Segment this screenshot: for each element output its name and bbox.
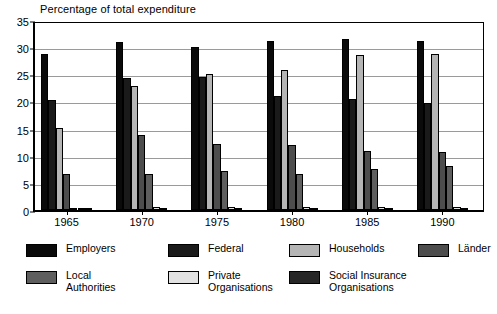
bar-1990-social-insurance-organisations (461, 208, 468, 210)
x-tick-label-1980: 1980 (280, 216, 304, 228)
bar-1975-social-insurance-organisations (235, 208, 242, 210)
bar-1975-households (206, 74, 213, 210)
bar-1975-local-authorities (221, 171, 228, 210)
legend-row: Local AuthoritiesPrivate OrganisationsSo… (26, 270, 486, 297)
bar-1965-households (56, 128, 63, 210)
legend-item-private-organisations[interactable]: Private Organisations (168, 270, 273, 293)
bar-1965-private-organisations (78, 208, 85, 210)
legend-item-social-insurance-organisations[interactable]: Social Insurance Organisations (289, 270, 407, 293)
bar-1985-federal (349, 99, 356, 210)
bar-group-1980 (267, 22, 318, 210)
legend-label: Local Authorities (66, 270, 116, 293)
x-tick-mark-1990 (442, 210, 443, 215)
bar-1990-households (431, 54, 438, 210)
x-tick-label-1970: 1970 (129, 216, 153, 228)
x-tick-mark-1975 (217, 210, 218, 215)
legend-label: Social Insurance Organisations (329, 270, 407, 293)
legend-item-employers[interactable]: Employers (26, 243, 116, 257)
legend-swatch-icon (418, 244, 449, 257)
bar-group-1970 (116, 22, 167, 210)
bar-1985-employers (342, 39, 349, 210)
bar-1985-local-authorities (371, 169, 378, 210)
x-tick-label-1990: 1990 (430, 216, 454, 228)
bar-1990-employers (417, 41, 424, 210)
legend-label: Länder (458, 243, 491, 255)
bars-layer (35, 22, 484, 210)
y-tick-label-25: 25 (17, 70, 29, 82)
bar-1965-länder (63, 174, 70, 210)
legend-swatch-icon (168, 244, 199, 257)
y-tick-label-0: 0 (23, 206, 29, 218)
bar-1970-local-authorities (145, 174, 152, 210)
bar-1990-länder (439, 152, 446, 210)
x-tick-mark-1970 (142, 210, 143, 215)
legend-item-households[interactable]: Households (289, 243, 384, 257)
x-tick-label-1985: 1985 (355, 216, 379, 228)
x-tick-mark-1965 (67, 210, 68, 215)
bar-1970-households (131, 86, 138, 210)
bar-1980-social-insurance-organisations (310, 208, 317, 210)
bar-1980-länder (288, 145, 295, 210)
bar-1990-private-organisations (453, 207, 460, 210)
bar-1980-private-organisations (303, 207, 310, 210)
bar-1975-länder (213, 144, 220, 210)
bar-chart-figure: Percentage of total expenditure 05101520… (0, 0, 497, 314)
bar-1985-social-insurance-organisations (385, 208, 392, 210)
bar-1980-households (281, 70, 288, 210)
x-tick-mark-1985 (367, 210, 368, 215)
legend-swatch-icon (289, 271, 320, 284)
bar-1970-länder (138, 135, 145, 210)
legend-label: Private Organisations (208, 270, 273, 293)
y-tick-label-20: 20 (17, 97, 29, 109)
x-tick-label-1975: 1975 (205, 216, 229, 228)
legend-row: EmployersFederalHouseholdsLänder (26, 243, 486, 270)
chart-legend: EmployersFederalHouseholdsLänder Local A… (26, 243, 486, 297)
chart-title: Percentage of total expenditure (40, 3, 196, 15)
bar-1965-employers (41, 54, 48, 210)
legend-swatch-icon (26, 244, 57, 257)
bar-1985-länder (364, 151, 371, 210)
bar-1965-social-insurance-organisations (85, 208, 92, 210)
bar-group-1975 (191, 22, 242, 210)
legend-item-länder[interactable]: Länder (418, 243, 491, 257)
bar-1990-federal (424, 103, 431, 210)
legend-item-federal[interactable]: Federal (168, 243, 244, 257)
plot-area: 05101520253035 196519701975198019851990 (33, 22, 484, 212)
legend-label: Federal (208, 243, 244, 255)
bar-1975-employers (191, 47, 198, 210)
y-tick-label-10: 10 (17, 152, 29, 164)
bar-1985-private-organisations (378, 207, 385, 210)
bar-1980-federal (274, 96, 281, 210)
bar-1970-private-organisations (153, 207, 160, 210)
x-tick-mark-1980 (292, 210, 293, 215)
bar-1965-federal (48, 100, 55, 210)
bar-1970-social-insurance-organisations (160, 208, 167, 210)
legend-swatch-icon (289, 244, 320, 257)
bar-group-1965 (41, 22, 92, 210)
legend-item-local-authorities[interactable]: Local Authorities (26, 270, 116, 293)
legend-swatch-icon (168, 271, 199, 284)
y-tick-mark-0 (30, 212, 35, 213)
bar-1975-federal (199, 77, 206, 210)
bar-1970-employers (116, 42, 123, 210)
bar-1975-private-organisations (228, 207, 235, 210)
bar-1990-local-authorities (446, 166, 453, 211)
bar-group-1990 (417, 22, 468, 210)
legend-swatch-icon (26, 271, 57, 284)
bar-1970-federal (123, 78, 130, 210)
legend-label: Households (329, 243, 384, 255)
y-tick-label-35: 35 (17, 16, 29, 28)
bar-1980-local-authorities (296, 174, 303, 210)
y-tick-label-30: 30 (17, 43, 29, 55)
bar-1985-households (356, 55, 363, 210)
bar-1980-employers (267, 41, 274, 210)
x-tick-label-1965: 1965 (54, 216, 78, 228)
y-tick-label-15: 15 (17, 125, 29, 137)
legend-label: Employers (66, 243, 116, 255)
bar-group-1985 (342, 22, 393, 210)
y-tick-label-5: 5 (23, 179, 29, 191)
bar-1965-local-authorities (70, 208, 77, 210)
